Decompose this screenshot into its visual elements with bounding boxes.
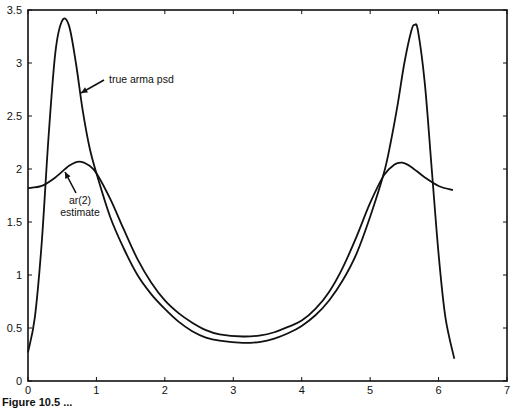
true-arma-psd-line (28, 18, 454, 358)
plot-annotations: true arma psdar(2)estimate (60, 73, 174, 218)
x-tick-label: 3 (230, 384, 236, 396)
y-tick-label: 2 (16, 163, 22, 175)
x-tick-label: 0 (25, 384, 31, 396)
ar2-estimate-line (28, 162, 453, 337)
figure-caption: Figure 10.5 ... (2, 396, 72, 408)
x-tick-label: 7 (504, 384, 510, 396)
x-tick-label: 6 (436, 384, 442, 396)
x-tick-label: 5 (367, 384, 373, 396)
x-tick-label: 2 (162, 384, 168, 396)
annotation-ar2-estimate: estimate (60, 206, 100, 218)
plot-frame (28, 10, 507, 381)
y-tick-label: 3 (16, 57, 22, 69)
y-tick-label: 0.5 (7, 322, 22, 334)
x-tick-label: 1 (93, 384, 99, 396)
plot-series (28, 18, 454, 358)
y-tick-label: 1 (16, 269, 22, 281)
annotation-ar2-estimate: ar(2) (69, 194, 91, 206)
y-tick-label: 0 (16, 375, 22, 387)
x-tick-label: 4 (299, 384, 305, 396)
annotation-true-arma-psd: true arma psd (109, 73, 174, 85)
y-tick-label: 3.5 (7, 4, 22, 16)
y-tick-label: 2.5 (7, 110, 22, 122)
y-tick-label: 1.5 (7, 216, 22, 228)
